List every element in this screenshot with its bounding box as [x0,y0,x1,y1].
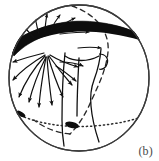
figure-canvas [0,0,159,161]
panel-label: (b) [138,145,153,157]
figure-panel-b: (b) [0,0,159,161]
